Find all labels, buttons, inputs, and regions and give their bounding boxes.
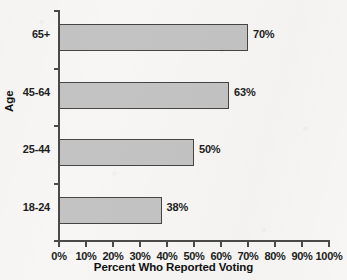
y-axis-tick <box>54 125 59 127</box>
x-axis-tick <box>85 241 87 247</box>
bar-value-label: 63% <box>234 86 255 98</box>
y-axis-title: Age <box>3 91 15 112</box>
bar <box>59 24 248 51</box>
y-axis-tick <box>54 10 59 12</box>
x-axis-tick <box>247 241 249 247</box>
bar-chart: 38%18-2450%25-4463%45-6470%65+ 0%10%20%3… <box>0 0 347 280</box>
x-axis-title: Percent Who Reported Voting <box>0 261 347 273</box>
bar-value-label: 50% <box>199 143 220 155</box>
x-axis-tick <box>112 241 114 247</box>
y-axis-category-label: 45-64 <box>23 86 50 98</box>
bar <box>59 197 162 224</box>
y-axis-tick <box>54 183 59 185</box>
x-axis-tick <box>220 241 222 247</box>
y-axis-category-label: 18-24 <box>23 201 50 213</box>
x-axis-tick <box>58 241 60 247</box>
bar <box>59 82 229 109</box>
x-axis-tick <box>193 241 195 247</box>
x-axis-tick <box>328 241 330 247</box>
plot-area: 38%18-2450%25-4463%45-6470%65+ 0%10%20%3… <box>59 10 329 240</box>
x-axis-tick <box>274 241 276 247</box>
y-axis-category-label: 25-44 <box>23 143 50 155</box>
x-axis-tick <box>166 241 168 247</box>
x-axis-tick <box>301 241 303 247</box>
y-axis-category-label: 65+ <box>32 28 50 40</box>
x-axis-tick <box>139 241 141 247</box>
y-axis-tick <box>54 68 59 70</box>
bar <box>59 139 194 166</box>
bar-value-label: 70% <box>253 28 274 40</box>
bar-value-label: 38% <box>167 201 188 213</box>
